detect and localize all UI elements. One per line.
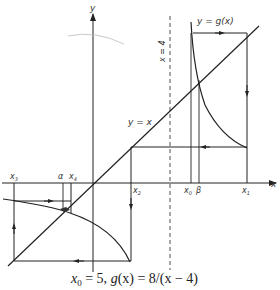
- alpha-label: α: [58, 172, 64, 181]
- y-axis-label: y: [89, 3, 96, 13]
- x0-label: x0: [183, 186, 192, 196]
- x3-label: x3: [9, 172, 18, 182]
- figure-caption: x0 = 5, g(x) = 8/(x − 4): [70, 271, 198, 288]
- identity-label: y = x: [127, 117, 153, 127]
- cobweb-diagram: y x x = 4 y = x y = g(x) x3 α x4 x2 x0 β…: [0, 0, 280, 290]
- faint-arc: [68, 34, 124, 44]
- x4-label: x4: [68, 172, 77, 182]
- asymptote-label: x = 4: [158, 40, 167, 63]
- x-axis-label: x: [270, 179, 277, 189]
- x2-label: x2: [132, 186, 141, 196]
- beta-label: β: [195, 186, 201, 195]
- identity-line: [8, 26, 259, 266]
- g-curve-label: y = g(x): [196, 16, 234, 26]
- x1-label: x1: [241, 186, 250, 196]
